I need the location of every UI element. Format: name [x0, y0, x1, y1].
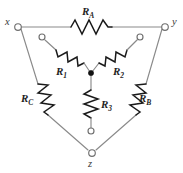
node-label-z: z [88, 159, 92, 170]
wire-t1-to-r1 [45, 40, 56, 50]
resistor-r3-symbol [84, 90, 98, 118]
node-terminal-y [162, 24, 169, 31]
wire-center-to-r2 [92, 63, 99, 72]
node-label-y: y [172, 17, 177, 28]
resistor-rc-symbol [38, 84, 54, 115]
resistor-r2-symbol [99, 50, 127, 66]
resistor-label-rb-sub: B [146, 98, 151, 107]
resistor-label-rc-sub: C [28, 98, 33, 107]
node-label-x: x [5, 17, 10, 28]
node-terminal-wye-1 [39, 34, 45, 40]
resistor-label-ra-sub: A [89, 11, 94, 20]
node-terminal-x [15, 24, 22, 31]
wire-rc-to-z [48, 115, 88, 150]
wire-y-to-rb [146, 29, 162, 84]
circuit-svg [0, 0, 183, 173]
node-center-junction [88, 70, 93, 75]
wire-x-to-rc [21, 29, 38, 84]
resistor-label-r1-sub: 1 [63, 71, 67, 80]
wire-r1-to-center [84, 63, 90, 72]
resistor-label-r2: R2 [113, 66, 124, 80]
resistor-label-r3-sub: 3 [108, 104, 112, 113]
resistor-label-rc: RC [21, 93, 33, 107]
resistor-label-r2-sub: 2 [120, 71, 124, 80]
node-terminal-z [89, 150, 96, 157]
wire-r2-to-t2 [127, 40, 137, 50]
node-terminal-wye-3 [88, 128, 94, 134]
resistor-label-r1: R1 [56, 66, 67, 80]
circuit-diagram-figure: x y z RA RC RB R1 R2 R3 [0, 0, 183, 173]
wire-rb-to-z [96, 115, 136, 150]
resistor-label-ra: RA [82, 6, 94, 20]
resistor-ra-symbol [71, 20, 112, 34]
node-terminal-wye-2 [137, 34, 143, 40]
resistor-label-r3: R3 [101, 99, 112, 113]
resistor-label-rb: RB [139, 93, 151, 107]
resistor-r1-symbol [56, 50, 84, 66]
